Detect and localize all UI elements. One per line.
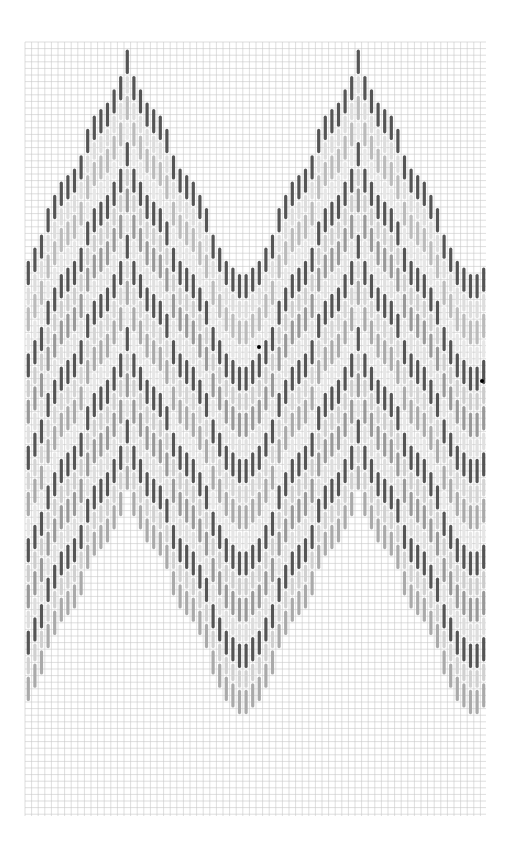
stitch-mark — [291, 413, 294, 437]
stitch-mark — [476, 413, 479, 437]
stitch-mark — [416, 498, 419, 522]
stitch-mark — [132, 122, 135, 146]
stitch-mark — [456, 611, 459, 629]
stitch-mark — [462, 591, 465, 615]
stitch-mark — [416, 525, 419, 543]
stitch-mark — [80, 340, 83, 364]
stitch-mark — [383, 413, 386, 431]
stitch-mark — [278, 327, 281, 345]
stitch-mark — [192, 439, 195, 457]
stitch-mark — [126, 465, 129, 489]
stitch-mark — [462, 571, 465, 589]
stitch-mark — [251, 591, 254, 615]
stitch-mark — [86, 267, 89, 291]
stitch-mark — [231, 571, 234, 589]
stitch-mark — [60, 366, 63, 390]
stitch-mark — [33, 366, 36, 384]
stitch-mark — [33, 386, 36, 410]
stitch-mark — [350, 399, 353, 423]
stitch-mark — [251, 479, 254, 497]
stitch-mark — [172, 155, 175, 179]
stitch-mark — [291, 228, 294, 252]
stitch-mark — [284, 287, 287, 311]
stitch-mark — [60, 459, 63, 483]
stitch-mark — [363, 492, 366, 516]
stitch-mark — [238, 300, 241, 318]
stitch-mark — [278, 578, 281, 602]
stitch-mark — [311, 182, 314, 200]
stitch-mark — [146, 380, 149, 404]
stitch-mark — [80, 551, 83, 569]
stitch-mark — [238, 366, 241, 390]
stitch-mark — [53, 287, 56, 311]
stitch-mark — [225, 261, 228, 285]
stitch-mark — [284, 406, 287, 424]
stitch-mark — [205, 419, 208, 437]
stitch-mark — [231, 498, 234, 522]
stitch-mark — [205, 234, 208, 252]
stitch-mark — [146, 333, 149, 357]
stitch-mark — [225, 472, 228, 490]
stitch-mark — [258, 538, 261, 562]
stitch-mark — [139, 413, 142, 437]
stitch-mark — [225, 538, 228, 562]
stitch-mark — [73, 380, 76, 398]
stitch-mark — [47, 208, 50, 232]
stitch-mark — [370, 505, 373, 529]
stitch-mark — [416, 314, 419, 338]
stitch-mark — [410, 399, 413, 423]
stitch-mark — [416, 386, 419, 404]
stitch-mark — [212, 281, 215, 305]
stitch-mark — [33, 248, 36, 272]
stitch-mark — [165, 314, 168, 338]
stitch-mark — [198, 241, 201, 265]
stitch-mark — [86, 248, 89, 266]
stitch-mark — [311, 571, 314, 595]
stitch-mark — [159, 208, 162, 232]
stitch-mark — [60, 578, 63, 596]
stitch-mark — [192, 320, 195, 344]
stitch-mark — [205, 254, 208, 278]
stitch-mark — [476, 505, 479, 529]
stitch-mark — [159, 485, 162, 509]
stitch-mark — [106, 498, 109, 516]
stitch-mark — [390, 512, 393, 530]
stitch-mark — [231, 545, 234, 569]
stitch-mark — [179, 333, 182, 351]
stitch-mark — [443, 281, 446, 305]
stitch-mark — [198, 333, 201, 357]
stitch-mark — [139, 274, 142, 298]
stitch-mark — [165, 432, 168, 450]
stitch-mark — [93, 208, 96, 232]
stitch-mark — [126, 327, 129, 351]
stitch-mark — [139, 366, 142, 390]
stitch-mark — [410, 307, 413, 331]
stitch-mark — [126, 188, 129, 212]
stitch-mark — [192, 485, 195, 503]
stitch-mark — [304, 472, 307, 490]
stitch-mark — [284, 426, 287, 450]
stitch-mark — [469, 644, 472, 668]
stitch-mark — [344, 254, 347, 272]
stitch-mark — [324, 512, 327, 530]
stitch-mark — [152, 320, 155, 338]
stitch-mark — [205, 512, 208, 530]
stitch-mark — [159, 512, 162, 530]
stitch-mark — [390, 347, 393, 371]
stitch-mark — [132, 261, 135, 285]
stitch-mark — [350, 195, 353, 213]
stitch-mark — [80, 320, 83, 338]
stitch-mark — [66, 360, 69, 384]
stitch-mark — [212, 307, 215, 325]
stitch-mark — [73, 168, 76, 192]
stitch-mark — [370, 320, 373, 344]
stitch-mark — [53, 380, 56, 404]
stitch-mark — [436, 531, 439, 555]
stitch-mark — [80, 248, 83, 272]
stitch-mark — [47, 512, 50, 530]
stitch-mark — [60, 208, 63, 226]
stitch-mark — [119, 241, 122, 259]
stitch-mark — [271, 327, 274, 351]
stitch-mark — [53, 498, 56, 516]
stitch-mark — [40, 512, 43, 536]
